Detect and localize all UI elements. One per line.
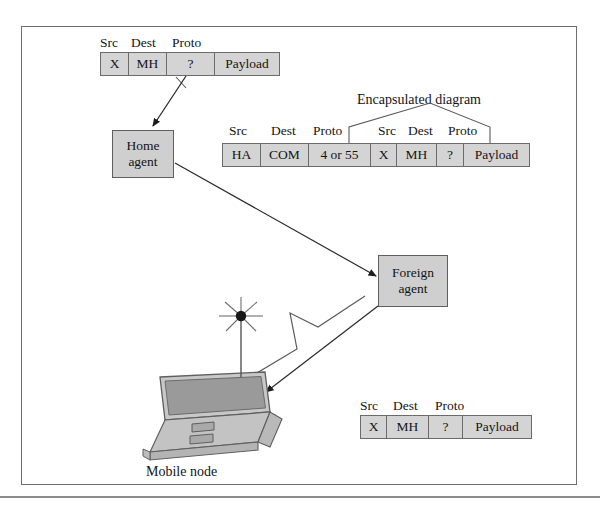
home-agent-label-line2: agent	[128, 154, 157, 170]
home-agent-node: Home agent	[112, 130, 174, 178]
packet-cell-proto: ?	[429, 416, 463, 438]
original-packet-caption-dest: Dest	[131, 36, 156, 50]
packet-cell-proto: ?	[167, 53, 215, 75]
original-packet: X MH ? Payload	[100, 52, 280, 76]
figure-root: Src Dest Proto X MH ? Payload Encapsulat…	[0, 0, 600, 511]
foreign-agent-label-line2: agent	[398, 281, 427, 297]
encapsulated-packet-caption-inner-dest: Dest	[408, 124, 433, 138]
encapsulated-packet-caption-inner-proto: Proto	[448, 124, 477, 138]
original-packet-caption-proto: Proto	[172, 36, 201, 50]
packet-cell-dest: MH	[129, 53, 167, 75]
home-agent-label-line1: Home	[127, 138, 160, 154]
delivered-packet-caption-src: Src	[360, 399, 378, 413]
encapsulated-packet-caption-outer-src: Src	[229, 124, 247, 138]
packet-cell-payload: Payload	[215, 53, 279, 75]
packet-cell-inner-payload: Payload	[464, 144, 529, 166]
packet-cell-inner-src: X	[371, 144, 397, 166]
encapsulated-packet-caption-inner-src: Src	[378, 124, 396, 138]
encapsulated-packet: HA COM 4 or 55 X MH ? Payload	[222, 143, 530, 167]
packet-cell-src: X	[101, 53, 129, 75]
packet-cell-src: X	[361, 416, 387, 438]
delivered-packet-caption-proto: Proto	[435, 399, 464, 413]
foreign-agent-label-line1: Foreign	[392, 265, 434, 281]
encapsulated-diagram-label: Encapsulated diagram	[357, 93, 481, 107]
packet-cell-payload: Payload	[463, 416, 531, 438]
delivered-packet-caption-dest: Dest	[393, 399, 418, 413]
packet-cell-inner-dest: MH	[397, 144, 437, 166]
encapsulated-packet-caption-outer-proto: Proto	[313, 124, 342, 138]
packet-cell-outer-dest: COM	[261, 144, 309, 166]
encapsulated-packet-caption-outer-dest: Dest	[271, 124, 296, 138]
foreign-agent-node: Foreign agent	[378, 255, 448, 307]
delivered-packet: X MH ? Payload	[360, 415, 532, 439]
packet-cell-outer-proto: 4 or 55	[309, 144, 371, 166]
packet-cell-dest: MH	[387, 416, 429, 438]
page-bottom-rule	[0, 496, 600, 498]
mobile-node-label: Mobile node	[146, 465, 217, 479]
original-packet-caption-src: Src	[100, 36, 118, 50]
packet-cell-inner-proto: ?	[437, 144, 464, 166]
packet-cell-outer-src: HA	[223, 144, 261, 166]
